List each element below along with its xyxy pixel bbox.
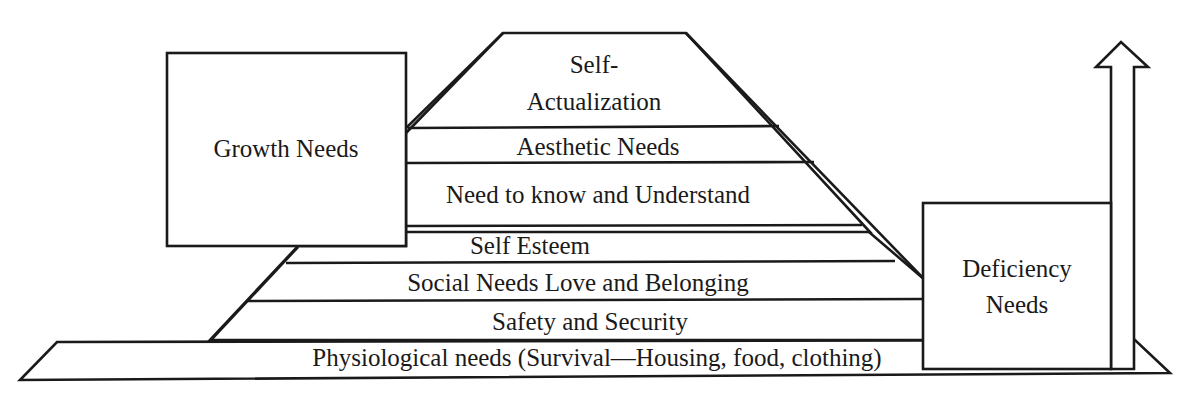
maslow-diagram: Self- Actualization Aesthetic Needs Need…: [0, 0, 1186, 399]
deficiency-needs-line1: Deficiency: [962, 255, 1072, 282]
level-social: Social Needs Love and Belonging: [407, 269, 749, 296]
level-self-esteem: Self Esteem: [470, 232, 591, 259]
deficiency-needs-box: [923, 203, 1111, 369]
divider-know: [406, 225, 862, 226]
level-know-understand: Need to know and Understand: [446, 181, 751, 208]
level-self-actualization-line2: Actualization: [527, 88, 662, 115]
divider-aesthetic: [406, 162, 814, 163]
deficiency-needs-line2: Needs: [986, 291, 1048, 318]
level-self-actualization-line1: Self-: [570, 51, 619, 78]
growth-needs-label: Growth Needs: [213, 135, 358, 162]
level-physiological: Physiological needs (Survival—Housing, f…: [312, 344, 881, 372]
level-safety: Safety and Security: [492, 308, 688, 335]
level-aesthetic: Aesthetic Needs: [516, 133, 679, 160]
